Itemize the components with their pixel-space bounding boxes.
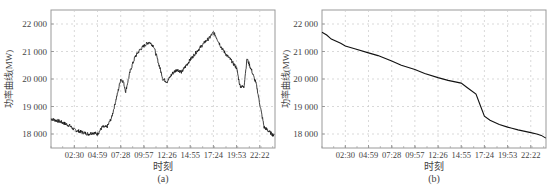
x-tick-label: 04:59 [88, 150, 107, 160]
y-tick-label: 21 000 [22, 47, 47, 57]
x-tick-label: 09:57 [405, 150, 424, 160]
y-tick-label: 22 000 [293, 19, 318, 29]
chart-panel-a: 18 00019 00020 00021 00022 00002:3004:59… [0, 0, 277, 188]
x-tick-label: 14:55 [452, 150, 471, 160]
x-tick-label: 09:57 [134, 150, 153, 160]
y-tick-label: 22 000 [22, 19, 47, 29]
y-tick-label: 19 000 [22, 102, 47, 112]
x-axis-label: 时刻 [153, 160, 173, 172]
x-tick-label: 02:30 [336, 150, 355, 160]
data-line [322, 32, 546, 138]
x-tick-label: 12:26 [428, 150, 447, 160]
x-tick-label: 12:26 [157, 150, 176, 160]
x-tick-label: 14:55 [181, 150, 200, 160]
line-chart-a: 18 00019 00020 00021 00022 00002:3004:59… [0, 0, 277, 188]
line-chart-b: 18 00019 00020 00021 00022 00002:3004:59… [277, 0, 554, 188]
y-tick-label: 19 000 [293, 102, 318, 112]
x-tick-label: 17:24 [204, 150, 224, 160]
y-tick-label: 20 000 [293, 74, 318, 84]
x-tick-label: 19:53 [498, 150, 517, 160]
x-tick-label: 04:59 [359, 150, 378, 160]
chart-panel-b: 18 00019 00020 00021 00022 00002:3004:59… [277, 0, 554, 188]
data-line [51, 32, 274, 137]
y-axis-label: 功率曲线(MW) [3, 50, 14, 109]
x-tick-label: 22:22 [250, 150, 269, 160]
y-tick-label: 21 000 [293, 47, 318, 57]
y-axis-label: 功率曲线(MW) [280, 50, 291, 109]
y-tick-label: 18 000 [22, 129, 47, 139]
x-tick-label: 07:28 [111, 150, 130, 160]
y-tick-label: 18 000 [293, 129, 318, 139]
panel-label: (b) [428, 173, 440, 185]
x-tick-label: 07:28 [382, 150, 401, 160]
x-tick-label: 17:24 [475, 150, 495, 160]
x-tick-label: 02:30 [65, 150, 84, 160]
x-tick-label: 22:22 [521, 150, 540, 160]
x-axis-label: 时刻 [424, 160, 444, 172]
panel-label: (a) [157, 173, 168, 185]
x-tick-label: 19:53 [227, 150, 246, 160]
y-tick-label: 20 000 [22, 74, 47, 84]
